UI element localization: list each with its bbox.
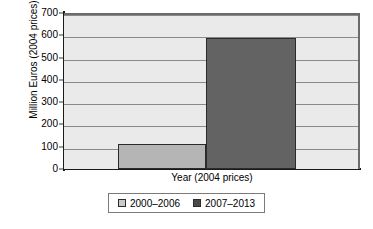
y-axis-tick-label: 500 [41, 53, 58, 63]
y-axis-tick-label: 300 [41, 97, 58, 107]
bar-chart-figure: Million Euros (2004 prices) 010020030040… [0, 0, 373, 229]
chart-legend: 2000–20062007–2013 [108, 193, 265, 213]
plot-area [64, 13, 360, 169]
legend-swatch-icon [193, 199, 201, 207]
y-axis-tick-label: 200 [41, 119, 58, 129]
y-axis-tick-label: 400 [41, 75, 58, 85]
gridline [64, 15, 358, 16]
y-axis-tick-label: 600 [41, 30, 58, 40]
legend-swatch-icon [118, 199, 126, 207]
y-axis-tick-label: 100 [41, 142, 58, 152]
y-axis-tick-label: 700 [41, 8, 58, 18]
bar-2007–2013 [206, 38, 296, 169]
bar-2000–2006 [118, 144, 206, 169]
legend-entry: 2000–2006 [118, 198, 180, 209]
y-axis-tick-labels: 0100200300400500600700 [20, 9, 64, 169]
legend-label: 2000–2006 [130, 198, 180, 209]
y-axis-tick-label: 0 [52, 164, 58, 174]
legend-entry: 2007–2013 [193, 198, 255, 209]
legend-label: 2007–2013 [205, 198, 255, 209]
x-axis-title: Year (2004 prices) [64, 172, 360, 184]
